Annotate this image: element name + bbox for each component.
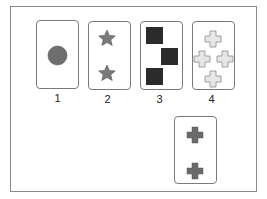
circle-icon — [37, 21, 80, 90]
cross-icon — [175, 117, 218, 185]
card-5 — [174, 116, 217, 184]
star-icon — [89, 22, 132, 91]
card-1 — [36, 20, 79, 89]
card-3 — [140, 21, 183, 90]
card-4 — [192, 21, 235, 90]
card-2 — [88, 21, 131, 90]
card-3-label: 3 — [138, 93, 181, 105]
card-4-label: 4 — [190, 93, 233, 105]
cross-icon — [193, 22, 236, 91]
card-1-label: 1 — [36, 92, 79, 104]
square-icon — [141, 22, 184, 91]
card-2-label: 2 — [86, 93, 129, 105]
